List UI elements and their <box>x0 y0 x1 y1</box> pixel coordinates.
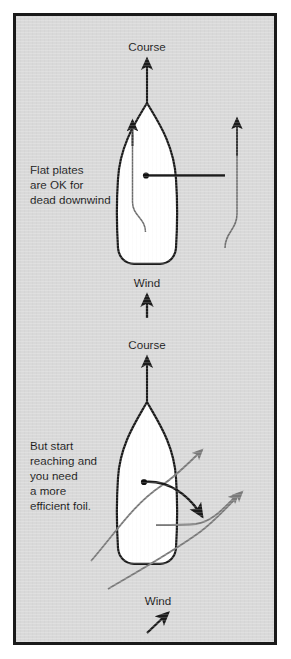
figure-root: Course Wind Flat plates <box>0 0 291 659</box>
bottom-panel: Course Wind But start <box>30 338 242 633</box>
bottom-caption-line-5: efficient foil. <box>30 499 91 512</box>
top-course-label: Course <box>128 40 165 53</box>
top-caption-line-1: Flat plates <box>30 163 84 176</box>
bottom-caption-line-1: But start <box>30 439 74 452</box>
top-wind-label: Wind <box>134 276 160 289</box>
top-foil-pivot-dot <box>143 172 149 178</box>
bottom-course-label: Course <box>128 338 165 351</box>
bottom-wind-arrow <box>147 613 168 633</box>
top-caption-line-3: dead downwind <box>30 193 111 206</box>
top-panel: Course Wind Flat plates <box>30 40 237 318</box>
figure-frame: Course Wind Flat plates <box>13 13 277 645</box>
diagram-svg: Course Wind Flat plates <box>16 16 274 642</box>
bottom-caption-line-4: a more <box>30 484 66 497</box>
bottom-caption-line-3: you need <box>30 469 78 482</box>
bottom-foil-pivot-dot <box>141 479 147 485</box>
top-hull <box>117 103 177 264</box>
top-outer-flow-line <box>225 146 237 248</box>
top-caption-line-2: are OK for <box>30 178 84 191</box>
bottom-caption-line-2: reaching and <box>30 454 97 467</box>
bottom-wind-label: Wind <box>145 594 171 607</box>
